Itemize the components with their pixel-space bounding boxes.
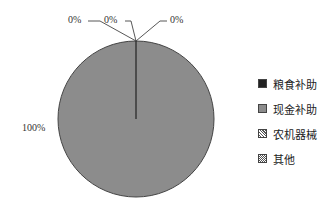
legend-item-other: 其他 — [258, 153, 317, 164]
legend-item-cash-subsidy: 现金补助 — [258, 103, 317, 114]
legend-item-machinery: 农机器械 — [258, 128, 317, 139]
swatch-icon — [258, 79, 267, 88]
swatch-icon — [258, 104, 267, 113]
label-machinery-pct: 0% — [104, 14, 117, 25]
swatch-icon — [258, 129, 267, 138]
legend: 粮食补助 现金补助 农机器械 其他 — [258, 78, 317, 178]
label-grain-subsidy-pct: 0% — [68, 14, 81, 25]
swatch-icon — [258, 154, 267, 163]
leader-line-right — [136, 21, 167, 41]
label-other-pct: 0% — [170, 14, 183, 25]
label-cash-subsidy-pct: 100% — [22, 122, 45, 133]
legend-item-grain-subsidy: 粮食补助 — [258, 78, 317, 89]
